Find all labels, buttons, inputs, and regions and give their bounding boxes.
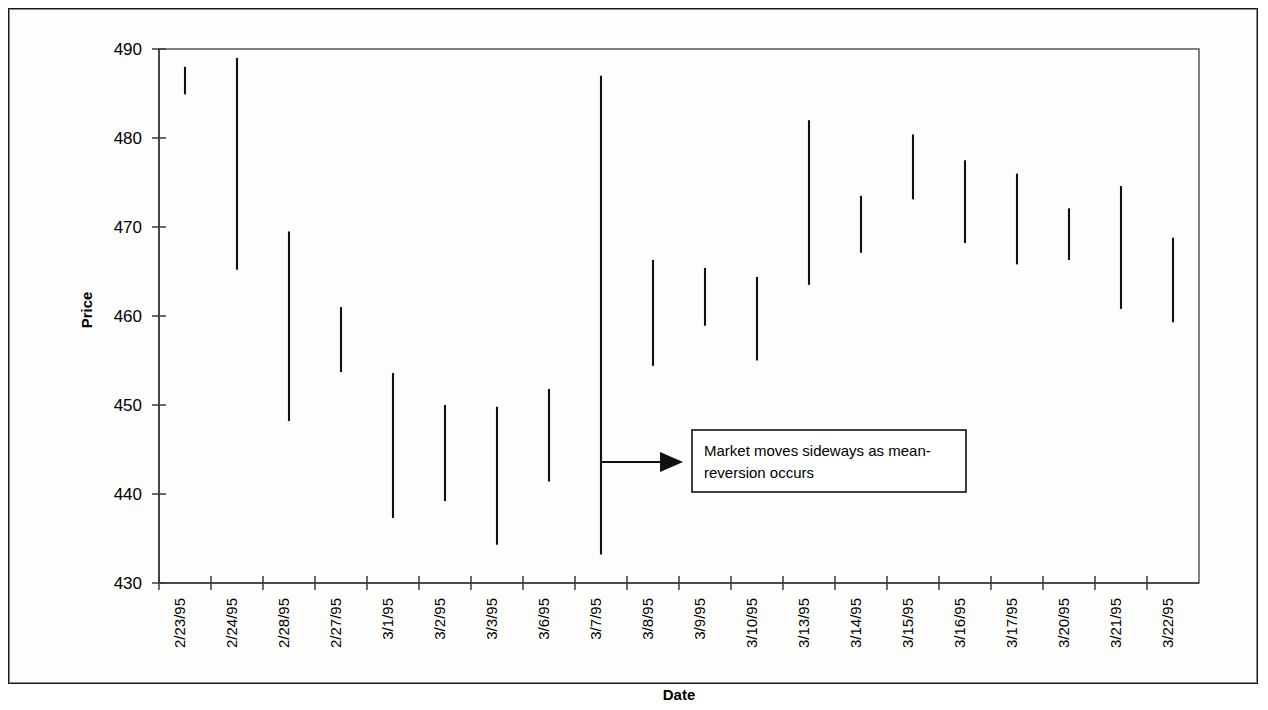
price-range-bar-chart: 430440450460470480490 2/23/952/24/952/28… — [0, 0, 1268, 710]
screenshot-page: 430440450460470480490 2/23/952/24/952/28… — [0, 0, 1268, 710]
x-axis-tick-label: 3/14/95 — [847, 598, 864, 648]
chart-area: 430440450460470480490 2/23/952/24/952/28… — [0, 0, 1268, 710]
x-axis-tick-labels: 2/23/952/24/952/28/952/27/953/1/953/2/95… — [171, 598, 1176, 648]
x-axis-tick-label: 2/24/95 — [223, 598, 240, 648]
x-axis-tick-label: 3/22/95 — [1159, 598, 1176, 648]
x-axis-title: Date — [663, 686, 696, 703]
x-axis-tick-label: 3/2/95 — [431, 598, 448, 640]
annotation-text-line-2: reversion occurs — [704, 464, 814, 481]
x-axis-tick-label: 3/10/95 — [743, 598, 760, 648]
y-axis-tick-label: 470 — [114, 218, 142, 237]
x-axis-tick-label: 3/21/95 — [1107, 598, 1124, 648]
x-axis-tick-label: 3/9/95 — [691, 598, 708, 640]
x-axis-tick-label: 2/23/95 — [171, 598, 188, 648]
annotation-text-line-1: Market moves sideways as mean- — [704, 442, 931, 459]
x-axis-tick-label: 3/17/95 — [1003, 598, 1020, 648]
y-axis-tick-label: 480 — [114, 129, 142, 148]
x-axis-tick-label: 2/27/95 — [327, 598, 344, 648]
x-axis-tick-label: 3/1/95 — [379, 598, 396, 640]
y-axis-title: Price — [78, 292, 95, 329]
x-axis-tick-label: 3/16/95 — [951, 598, 968, 648]
y-axis-tick-label: 430 — [114, 574, 142, 593]
x-axis-tick-label: 2/28/95 — [275, 598, 292, 648]
annotation-textbox — [692, 430, 966, 492]
annotation-mean-reversion: Market moves sideways as mean- reversion… — [601, 430, 966, 492]
x-axis-tick-label: 3/3/95 — [483, 598, 500, 640]
annotation-arrow-head — [660, 452, 683, 472]
y-axis-tick-label: 490 — [114, 40, 142, 59]
x-axis-tick-label: 3/7/95 — [587, 598, 604, 640]
plot-frame — [159, 49, 1199, 583]
x-axis-tick-label: 3/15/95 — [899, 598, 916, 648]
x-axis-tick-label: 3/8/95 — [639, 598, 656, 640]
price-bars — [185, 58, 1173, 555]
x-axis-tick-label: 3/13/95 — [795, 598, 812, 648]
y-axis-tick-label: 460 — [114, 307, 142, 326]
y-axis-tick-label: 440 — [114, 485, 142, 504]
x-axis-tick-label: 3/6/95 — [535, 598, 552, 640]
y-axis-tick-label: 450 — [114, 396, 142, 415]
x-axis-tick-label: 3/20/95 — [1055, 598, 1072, 648]
y-axis-tick-labels: 430440450460470480490 — [114, 40, 142, 593]
